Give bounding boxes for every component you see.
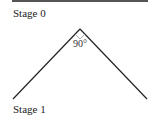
angle-label: 90° bbox=[73, 39, 87, 49]
left-line bbox=[13, 29, 80, 99]
stage-1-label: Stage 1 bbox=[13, 104, 46, 115]
right-line bbox=[80, 29, 147, 99]
